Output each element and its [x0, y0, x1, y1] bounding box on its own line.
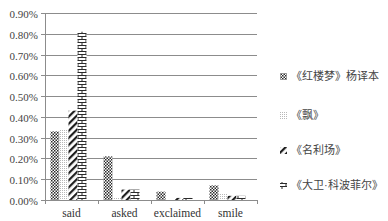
y-tick-label: 0.50% — [10, 91, 38, 103]
bar — [228, 196, 237, 200]
legend-swatch-brick-icon — [280, 182, 287, 189]
y-tick-label: 0.00% — [10, 195, 38, 207]
legend: 《红楼梦》杨译本《飘》《名利场》《大卫·科波菲尔》 — [280, 69, 383, 191]
bar — [210, 185, 219, 200]
legend-label: 《名利场》 — [291, 143, 346, 156]
bar — [69, 111, 78, 200]
bar — [157, 192, 166, 200]
y-tick-label: 0.20% — [10, 153, 38, 165]
x-tick-label: said — [62, 207, 81, 219]
bars — [51, 32, 246, 200]
bar — [131, 190, 140, 200]
legend-label: 《大卫·科波菲尔》 — [291, 178, 383, 191]
bar — [60, 129, 69, 200]
bar — [113, 198, 122, 200]
y-tick-label: 0.80% — [10, 29, 38, 41]
legend-swatch-dots-icon — [280, 112, 287, 119]
y-tick-label: 0.70% — [10, 50, 38, 62]
bar — [104, 156, 113, 200]
y-tick-label: 0.10% — [10, 174, 38, 186]
x-axis: saidaskedexclaimedsmile — [45, 200, 258, 219]
bar — [237, 196, 246, 200]
bar — [219, 194, 228, 200]
y-axis: 0.00%0.10%0.20%0.30%0.40%0.50%0.60%0.70%… — [10, 8, 46, 207]
y-tick-label: 0.40% — [10, 112, 38, 124]
x-tick-label: smile — [218, 207, 243, 219]
bar — [122, 190, 131, 200]
legend-swatch-checker-icon — [280, 73, 287, 80]
y-tick-label: 0.30% — [10, 133, 38, 145]
x-tick-label: exclaimed — [154, 207, 202, 219]
bar — [78, 32, 87, 200]
bar — [175, 198, 184, 200]
legend-label: 《飘》 — [291, 109, 324, 121]
y-tick-label: 0.90% — [10, 8, 38, 20]
bar-chart: 0.00%0.10%0.20%0.30%0.40%0.50%0.60%0.70%… — [0, 0, 388, 221]
y-tick-label: 0.60% — [10, 70, 38, 82]
legend-label: 《红楼梦》杨译本 — [291, 69, 379, 82]
legend-swatch-diagonal-icon — [280, 147, 287, 154]
x-tick-label: asked — [111, 207, 137, 219]
bar — [51, 131, 60, 200]
bar — [184, 198, 193, 200]
